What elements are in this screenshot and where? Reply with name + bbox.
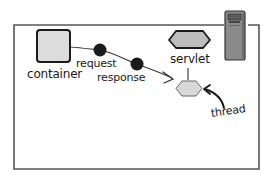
response-dot <box>131 58 144 71</box>
diagram-canvas: container request response servlet threa… <box>0 0 271 174</box>
request-dot <box>94 44 107 57</box>
container-box <box>37 30 70 62</box>
request-label: request <box>76 57 116 70</box>
server-tower-icon <box>225 11 245 60</box>
response-label: response <box>97 71 145 84</box>
servlet-label: servlet <box>170 52 210 66</box>
thread-hexagon <box>176 81 202 96</box>
arrow-head <box>163 72 173 83</box>
servlet-hexagon <box>169 31 210 48</box>
container-label: container <box>27 67 82 81</box>
